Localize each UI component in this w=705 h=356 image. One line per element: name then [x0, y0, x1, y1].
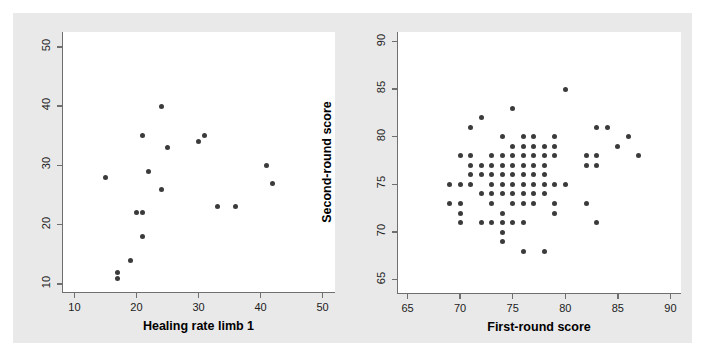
scatter-point: [479, 163, 484, 168]
scatter-point: [500, 134, 505, 139]
y-axis-tick-label: 50: [40, 37, 52, 53]
y-axis-tick: [392, 279, 397, 280]
plot-area-right: [397, 32, 681, 294]
y-axis-tick-label: 80: [375, 127, 387, 143]
scatter-point: [584, 163, 589, 168]
y-axis-tick-label: 30: [40, 155, 52, 171]
scatter-point: [447, 182, 452, 187]
x-axis-tick-label: 90: [664, 302, 676, 314]
scatter-point: [458, 220, 463, 225]
scatter-point: [584, 201, 589, 206]
y-axis-tick: [392, 88, 397, 89]
x-axis-tick: [407, 294, 408, 299]
y-axis-tick: [392, 41, 397, 42]
scatter-point: [552, 211, 557, 216]
x-axis-tick-label: 75: [507, 302, 519, 314]
x-axis-tick-label: 50: [316, 301, 328, 313]
scatter-point: [128, 258, 133, 263]
scatter-panel-healing-rate: 10203040501020304050Healing rate limb 1H…: [0, 0, 352, 356]
y-axis-tick: [57, 283, 62, 284]
y-axis-tick-label: 70: [375, 222, 387, 238]
x-axis-tick: [459, 294, 460, 299]
x-axis-title: Healing rate limb 1: [143, 319, 254, 333]
y-axis-tick-label: 40: [40, 96, 52, 112]
x-axis-tick-label: 65: [401, 302, 413, 314]
scatter-point: [542, 144, 547, 149]
scatter-point: [542, 249, 547, 254]
scatter-point: [521, 220, 526, 225]
x-axis-tick-label: 20: [130, 301, 142, 313]
y-axis-tick-label: 10: [40, 274, 52, 290]
scatter-point: [159, 187, 164, 192]
scatter-point: [500, 211, 505, 216]
y-axis-tick: [392, 136, 397, 137]
x-axis-tick: [512, 294, 513, 299]
scatter-point: [458, 182, 463, 187]
y-axis-tick: [57, 105, 62, 106]
x-axis-tick-label: 10: [68, 301, 80, 313]
y-axis-tick: [57, 46, 62, 47]
scatter-point: [563, 182, 568, 187]
y-axis-tick-label: 20: [40, 215, 52, 231]
x-axis-tick: [322, 293, 323, 298]
scatter-point: [521, 249, 526, 254]
scatter-point: [521, 144, 526, 149]
x-axis-tick-label: 70: [454, 302, 466, 314]
scatter-point: [500, 230, 505, 235]
scatter-point: [468, 125, 473, 130]
y-axis-tick-label: 85: [375, 79, 387, 95]
scatter-point: [159, 104, 164, 109]
x-axis-tick: [260, 293, 261, 298]
y-axis-title: Second-round score: [320, 82, 334, 242]
x-axis-tick: [198, 293, 199, 298]
x-axis-tick: [617, 294, 618, 299]
scatter-point: [500, 182, 505, 187]
figure-container: 10203040501020304050Healing rate limb 1H…: [0, 0, 705, 356]
y-axis-tick: [392, 184, 397, 185]
x-axis-tick-label: 80: [559, 302, 571, 314]
x-axis-tick-label: 30: [192, 301, 204, 313]
scatter-point: [500, 220, 505, 225]
scatter-point: [542, 163, 547, 168]
x-axis-tick: [136, 293, 137, 298]
y-axis-tick: [57, 224, 62, 225]
x-axis-tick: [74, 293, 75, 298]
y-axis-tick: [392, 231, 397, 232]
y-axis-tick: [57, 165, 62, 166]
scatter-point: [479, 220, 484, 225]
scatter-panel-golf-scores: 657075808590657075808590First-round scor…: [352, 0, 705, 356]
y-axis-tick-label: 90: [375, 32, 387, 48]
scatter-point: [458, 201, 463, 206]
scatter-point: [521, 163, 526, 168]
scatter-point: [468, 163, 473, 168]
scatter-point: [479, 115, 484, 120]
scatter-point: [458, 211, 463, 216]
scatter-point: [521, 182, 526, 187]
scatter-point: [510, 106, 515, 111]
scatter-point: [605, 125, 610, 130]
scatter-point: [103, 175, 108, 180]
scatter-point: [500, 239, 505, 244]
scatter-point: [500, 163, 505, 168]
x-axis-title: First-round score: [487, 320, 591, 334]
x-axis-tick-label: 85: [612, 302, 624, 314]
plot-area-left: [62, 32, 335, 293]
scatter-point: [563, 87, 568, 92]
x-axis-tick: [565, 294, 566, 299]
x-axis-tick: [670, 294, 671, 299]
scatter-point: [521, 201, 526, 206]
scatter-point: [542, 182, 547, 187]
y-axis-tick-label: 75: [375, 174, 387, 190]
x-axis-tick-label: 40: [254, 301, 266, 313]
y-axis-tick-label: 65: [375, 270, 387, 286]
scatter-point: [458, 153, 463, 158]
